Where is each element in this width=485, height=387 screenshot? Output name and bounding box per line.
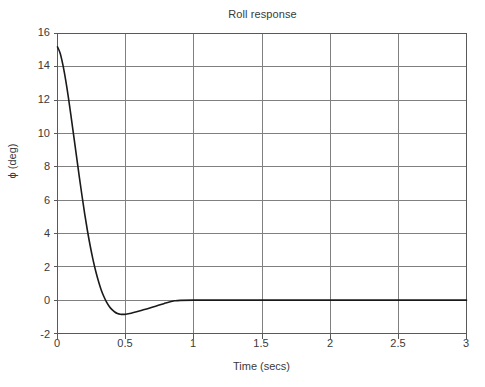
plot-area xyxy=(0,0,485,387)
gridlines xyxy=(58,34,467,334)
chart-figure: Roll response ϕ (deg) Time (secs) 16 14 … xyxy=(0,0,485,387)
axis-ticks xyxy=(54,34,467,339)
